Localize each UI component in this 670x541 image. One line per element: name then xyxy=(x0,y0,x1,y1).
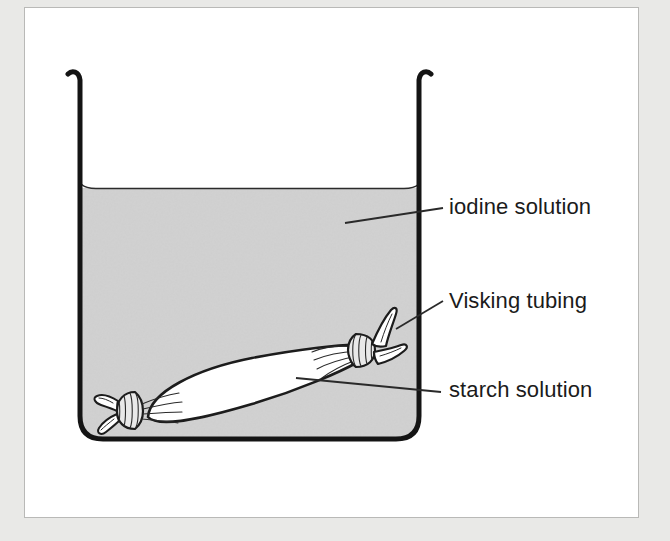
label-iodine-solution: iodine solution xyxy=(449,196,591,218)
tubing-right-knot xyxy=(348,334,375,367)
liquid-surface-line xyxy=(81,184,419,189)
label-starch-solution: starch solution xyxy=(449,379,592,401)
experiment-diagram xyxy=(0,0,670,541)
tubing-left-knot xyxy=(117,392,143,429)
label-visking-tubing: Visking tubing xyxy=(449,290,587,312)
figure-page: iodine solution Visking tubing starch so… xyxy=(0,0,670,541)
